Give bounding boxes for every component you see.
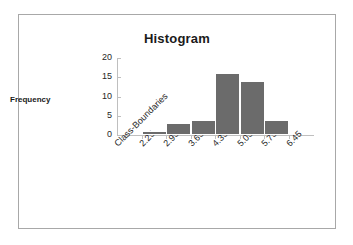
y-tick-label: 20 [86, 53, 112, 62]
histogram-bar [264, 120, 289, 135]
histogram-bar [166, 123, 191, 135]
y-tick-label: 0 [86, 130, 112, 139]
histogram-bar [240, 81, 265, 135]
chart-title: Histogram [19, 31, 335, 46]
y-axis-title: Frequency [10, 95, 50, 104]
plot-area [117, 58, 313, 135]
histogram-bar [142, 131, 167, 135]
histogram-bar [215, 73, 240, 135]
y-tick-label: 5 [86, 111, 112, 120]
y-tick-label: 10 [86, 92, 112, 101]
y-tick-label: 15 [86, 72, 112, 81]
histogram-bar [191, 120, 216, 135]
